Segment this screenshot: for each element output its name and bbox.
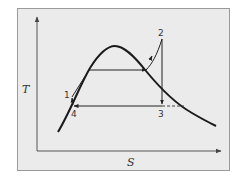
line-1-to-dome <box>72 70 89 97</box>
point-label-1: 1 <box>64 90 70 100</box>
x-axis-label: S <box>127 156 135 169</box>
point-label-4: 4 <box>71 109 77 119</box>
saturation-dome-curve <box>58 46 216 132</box>
point-label-3: 3 <box>158 109 164 119</box>
y-axis-label: T <box>22 83 31 96</box>
superheat-arrow <box>150 56 152 60</box>
ts-diagram: 2 1 4 3 T S <box>0 0 245 183</box>
superheat-curve <box>146 39 162 70</box>
point-label-2: 2 <box>158 28 164 38</box>
